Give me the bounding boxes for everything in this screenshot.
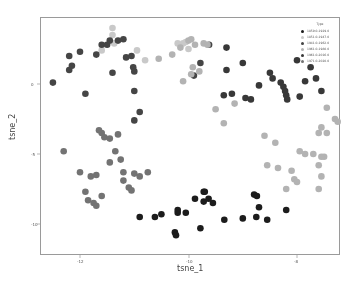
data-point xyxy=(98,193,105,200)
data-point xyxy=(212,106,219,113)
data-point xyxy=(145,169,152,176)
data-point xyxy=(221,92,228,99)
data-point xyxy=(272,140,279,147)
data-point xyxy=(261,133,268,140)
data-point xyxy=(120,36,127,43)
data-point xyxy=(77,49,84,56)
data-point xyxy=(296,93,303,100)
data-point xyxy=(310,151,317,158)
data-point xyxy=(82,91,89,98)
y-tick-label: -10 xyxy=(31,222,38,227)
data-point xyxy=(98,130,105,137)
data-point xyxy=(256,82,263,89)
data-point xyxy=(188,71,195,78)
data-point xyxy=(109,25,116,32)
data-point xyxy=(192,196,199,203)
data-point xyxy=(134,47,141,54)
data-point xyxy=(107,37,114,44)
data-point xyxy=(93,172,100,179)
data-point xyxy=(269,75,276,82)
legend-marker-icon xyxy=(301,48,304,51)
legend-label: 1961.0-2016.0 xyxy=(307,53,329,57)
data-point xyxy=(315,186,322,193)
legend: Type 1859.0-1929.01851.0-1947.01941.0-19… xyxy=(301,22,339,64)
data-point xyxy=(88,173,95,180)
data-point xyxy=(107,135,114,142)
data-point xyxy=(136,109,143,116)
data-point xyxy=(169,51,176,58)
legend-label: 1859.0-1929.0 xyxy=(307,29,329,33)
data-point xyxy=(109,70,116,77)
data-point xyxy=(197,225,204,232)
legend-entry: 1971.0-2020.0 xyxy=(301,58,339,64)
data-point xyxy=(264,217,271,224)
data-point xyxy=(69,63,76,70)
data-point xyxy=(117,156,124,163)
data-point xyxy=(302,151,309,158)
data-point xyxy=(115,131,122,138)
legend-marker-icon xyxy=(301,60,304,63)
data-point xyxy=(324,130,331,137)
data-point xyxy=(302,78,309,85)
data-point xyxy=(188,36,195,43)
data-point xyxy=(288,168,295,175)
x-axis-label: tsne_1 xyxy=(177,264,203,273)
data-point xyxy=(264,162,271,169)
data-point xyxy=(131,68,138,75)
data-point xyxy=(223,44,230,51)
data-point xyxy=(196,68,203,75)
data-point xyxy=(202,189,209,196)
series-1 xyxy=(98,25,191,64)
data-point xyxy=(248,96,255,103)
data-point xyxy=(229,91,236,98)
data-point xyxy=(107,159,114,166)
data-point xyxy=(221,217,228,224)
data-point xyxy=(177,44,184,51)
data-point xyxy=(294,179,301,186)
data-point xyxy=(318,124,325,131)
data-point xyxy=(313,75,320,82)
data-point xyxy=(315,162,322,169)
data-point xyxy=(180,78,187,85)
data-point xyxy=(128,187,135,194)
data-point xyxy=(334,119,341,126)
series-0 xyxy=(136,189,289,239)
data-point xyxy=(192,42,199,49)
series-5 xyxy=(60,127,151,209)
data-point xyxy=(283,186,290,193)
data-point xyxy=(221,120,228,127)
data-point xyxy=(131,117,138,124)
y-tick-label: -5 xyxy=(31,152,35,157)
data-point xyxy=(275,165,282,172)
data-point xyxy=(66,53,73,60)
data-point xyxy=(283,207,290,214)
data-point xyxy=(240,215,247,222)
data-point xyxy=(152,214,159,221)
legend-title: Type xyxy=(301,22,339,26)
data-point xyxy=(256,204,263,211)
data-point xyxy=(131,88,138,95)
data-point xyxy=(77,169,84,176)
data-point xyxy=(254,193,261,200)
data-point xyxy=(120,169,127,176)
data-point xyxy=(128,53,135,60)
data-point xyxy=(109,32,116,39)
data-point xyxy=(318,154,325,161)
data-point xyxy=(284,96,291,103)
data-point xyxy=(93,51,100,58)
legend-label: 1941.0-1962.0 xyxy=(307,41,329,45)
data-point xyxy=(318,88,325,95)
data-point xyxy=(155,56,162,63)
data-point xyxy=(197,60,204,67)
data-point xyxy=(174,207,181,214)
data-point xyxy=(223,67,230,74)
legend-label: 1971.0-2020.0 xyxy=(307,59,329,63)
data-point xyxy=(294,57,301,64)
data-point xyxy=(231,100,238,107)
data-point xyxy=(183,210,190,217)
data-point xyxy=(60,148,67,155)
data-point xyxy=(120,177,127,184)
legend-marker-icon xyxy=(301,42,304,45)
legend-marker-icon xyxy=(301,54,304,57)
data-point xyxy=(112,148,119,155)
